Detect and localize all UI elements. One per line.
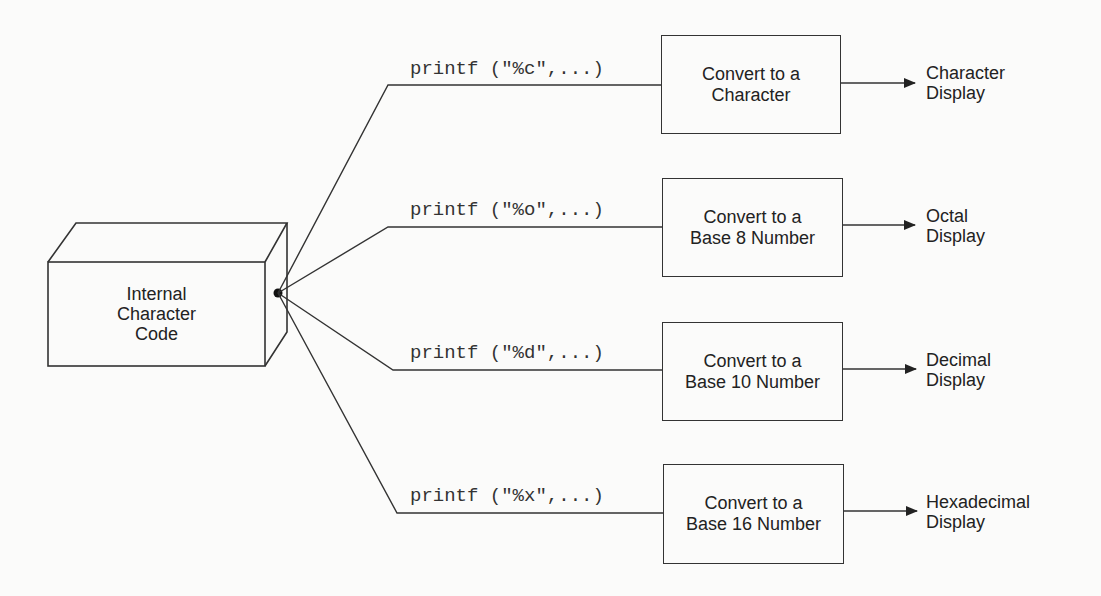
printf-call-char: printf ("%c",...) xyxy=(410,58,604,80)
output-line: Display xyxy=(926,370,991,390)
label-line: Character xyxy=(48,304,265,324)
internal-character-code-label: Internal Character Code xyxy=(48,284,265,344)
box-line: Convert to a xyxy=(702,64,800,85)
box-line: Base 10 Number xyxy=(685,372,820,393)
output-line: Octal xyxy=(926,206,985,226)
convert-box-hex: Convert to aBase 16 Number xyxy=(663,464,844,564)
box-line: Character xyxy=(702,85,800,106)
branch-line-octal xyxy=(278,227,662,293)
output-line: Hexadecimal xyxy=(926,492,1030,512)
label-line: Code xyxy=(48,324,265,344)
convert-box-decimal: Convert to aBase 10 Number xyxy=(662,322,843,421)
output-decimal-display: DecimalDisplay xyxy=(926,350,991,390)
box-line: Convert to a xyxy=(686,493,821,514)
printf-call-hex: printf ("%x",...) xyxy=(410,485,604,507)
box-line: Convert to a xyxy=(690,207,815,228)
convert-box-octal: Convert to aBase 8 Number xyxy=(662,178,843,277)
printf-call-decimal: printf ("%d",...) xyxy=(410,342,604,364)
box-line: Base 16 Number xyxy=(686,514,821,535)
convert-box-char: Convert to aCharacter xyxy=(661,35,841,134)
branch-line-char xyxy=(278,85,661,293)
printf-call-octal: printf ("%o",...) xyxy=(410,199,604,221)
output-line: Display xyxy=(926,226,985,246)
output-line: Display xyxy=(926,512,1030,532)
output-hex-display: HexadecimalDisplay xyxy=(926,492,1030,532)
output-line: Display xyxy=(926,83,1005,103)
output-octal-display: OctalDisplay xyxy=(926,206,985,246)
box-line: Base 8 Number xyxy=(690,228,815,249)
box-line: Convert to a xyxy=(685,351,820,372)
output-line: Character xyxy=(926,63,1005,83)
output-char-display: CharacterDisplay xyxy=(926,63,1005,103)
label-line: Internal xyxy=(48,284,265,304)
output-line: Decimal xyxy=(926,350,991,370)
branch-line-hex xyxy=(278,293,663,513)
